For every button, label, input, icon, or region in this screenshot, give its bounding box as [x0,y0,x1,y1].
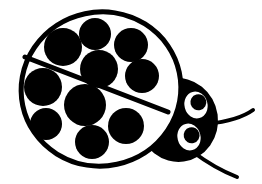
spot-10 [108,108,144,144]
spot-1 [44,28,82,66]
spot-7 [64,84,106,126]
ladybug-illustration [0,0,262,184]
spot-5 [125,59,159,93]
spot-8 [30,108,62,140]
spot-6 [24,68,62,106]
spot-4 [80,50,118,88]
spot-9 [75,125,109,159]
spot-2 [79,18,111,50]
spot-3 [114,28,148,62]
illustration-canvas [0,0,262,184]
